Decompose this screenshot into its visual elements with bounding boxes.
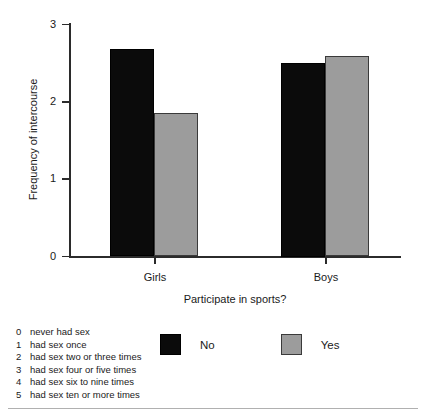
x-axis-tick [325, 257, 327, 264]
footnote-row: 1had sex once [16, 339, 141, 352]
y-axis-tick-label: 3 [16, 19, 56, 30]
bar-girls-yes [154, 113, 198, 256]
x-axis-title: Participate in sports? [70, 293, 400, 306]
footnote-row: 5had sex ten or more times [16, 389, 141, 402]
y-axis-tick-label: 0 [16, 251, 56, 262]
legend-item-no: No [160, 334, 215, 355]
y-axis-tick [62, 178, 70, 180]
footnote-code: 5 [16, 389, 30, 402]
legend-label: Yes [321, 339, 340, 351]
legend-item-yes: Yes [281, 334, 340, 355]
footnote-row: 2had sex two or three times [16, 351, 141, 364]
footnote-text: had sex once [30, 339, 87, 352]
chart-legend: NoYes [160, 334, 339, 355]
footnote-text: had sex ten or more times [30, 389, 140, 402]
bar-chart-figure: 0123 GirlsBoys Participate in sports? Fr… [0, 0, 426, 420]
bottom-divider [8, 408, 418, 409]
footnote-text: had sex four or five times [30, 364, 136, 377]
bar-boys-no [281, 63, 325, 256]
y-axis-line [69, 23, 71, 258]
footnote-row: 0never had sex [16, 326, 141, 339]
y-axis-tick [62, 101, 70, 103]
footnote-code: 1 [16, 339, 30, 352]
y-axis-tick [62, 256, 70, 258]
x-axis-category-label: Boys [286, 271, 366, 283]
footnote-key: 0never had sex1had sex once2had sex two … [16, 326, 141, 402]
legend-label: No [200, 339, 215, 351]
footnote-code: 2 [16, 351, 30, 364]
footnote-code: 3 [16, 364, 30, 377]
bar-boys-yes [325, 56, 369, 256]
footnote-code: 4 [16, 376, 30, 389]
footnote-text: never had sex [30, 326, 90, 339]
footnote-row: 3had sex four or five times [16, 364, 141, 377]
footnote-text: had sex six to nine times [30, 376, 134, 389]
x-axis-category-label: Girls [115, 271, 195, 283]
y-axis-title: Frequency of intercourse [27, 40, 40, 240]
footnote-row: 4had sex six to nine times [16, 376, 141, 389]
x-axis-tick [154, 257, 156, 264]
footnote-code: 0 [16, 326, 30, 339]
y-axis-tick [62, 24, 70, 26]
footnote-text: had sex two or three times [30, 351, 141, 364]
bar-girls-no [110, 49, 154, 257]
black-square-swatch [160, 334, 181, 355]
gray-square-swatch [281, 334, 302, 355]
